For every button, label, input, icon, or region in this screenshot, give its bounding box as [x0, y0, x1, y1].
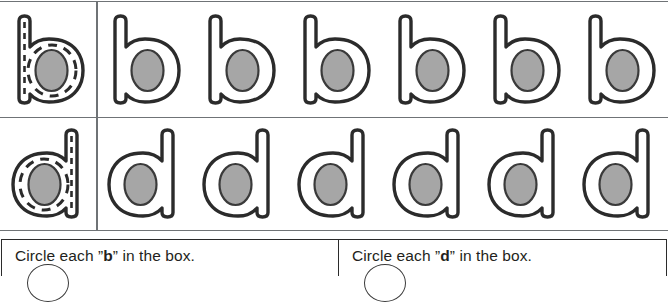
practice-letter-d-1 — [96, 118, 192, 230]
model-letter-b — [0, 2, 96, 117]
practice-letter-b-3 — [286, 2, 382, 117]
instruction-suffix-b: in the box. — [118, 247, 195, 264]
instruction-suffix-d: in the box. — [455, 247, 532, 264]
answer-circle-d — [364, 264, 406, 302]
practice-row-d — [0, 118, 668, 230]
practice-letter-d-3 — [286, 118, 382, 230]
practice-letter-b-1 — [96, 2, 192, 117]
practice-letter-d-5 — [476, 118, 572, 230]
instruction-prefix-b: Circle each — [15, 247, 98, 264]
practice-letter-b-4 — [381, 2, 477, 117]
practice-row-b — [0, 2, 668, 118]
instruction-panels: Circle each ”b” in the box. Circle each … — [1, 239, 667, 276]
instruction-text-b: Circle each ”b” in the box. — [15, 248, 195, 264]
practice-letter-b-6 — [571, 2, 667, 117]
instruction-prefix-d: Circle each — [352, 247, 435, 264]
practice-letter-b-5 — [476, 2, 572, 117]
instruction-text-d: Circle each ”d” in the box. — [352, 248, 532, 264]
answer-circle-b — [27, 264, 69, 302]
instruction-target-letter-b: b — [103, 247, 113, 264]
practice-letter-b-2 — [191, 2, 287, 117]
practice-grid — [0, 1, 668, 231]
practice-letter-d-4 — [381, 118, 477, 230]
practice-letter-d-2 — [191, 118, 287, 230]
instruction-target-letter-d: d — [440, 247, 450, 264]
practice-letter-d-6 — [571, 118, 667, 230]
model-letter-d — [0, 118, 96, 230]
